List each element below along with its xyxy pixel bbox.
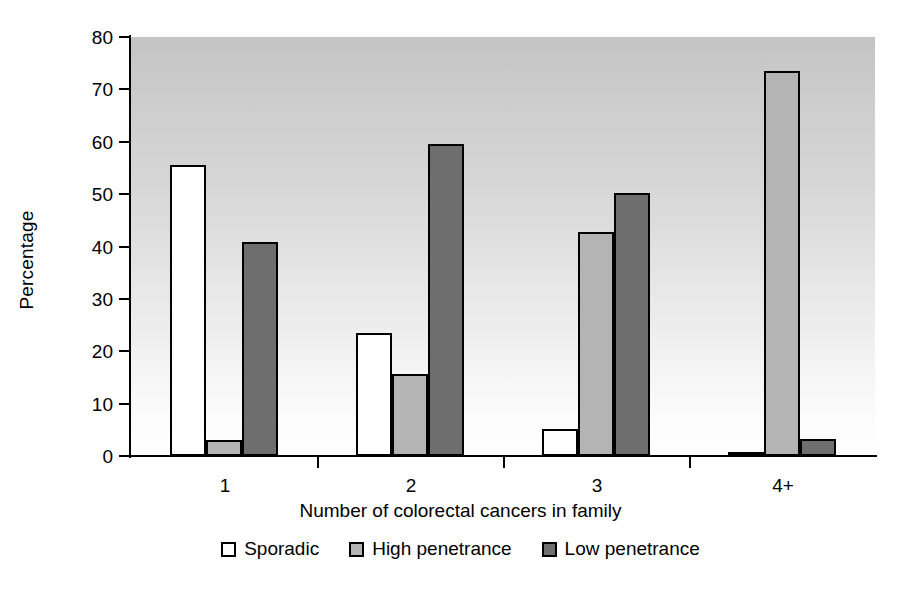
legend-swatch-icon	[349, 542, 364, 557]
bar-chart-figure: Percentage 01020304050607080 1234+ Numbe…	[0, 0, 921, 606]
x-tick-mark	[689, 457, 691, 468]
x-tick-label: 4+	[743, 475, 823, 497]
x-tick-label: 3	[557, 475, 637, 497]
legend-swatch-icon	[542, 542, 557, 557]
legend-item: High penetrance	[349, 538, 511, 560]
legend-item: Low penetrance	[542, 538, 700, 560]
chart-legend: SporadicHigh penetranceLow penetrance	[0, 538, 921, 560]
x-axis-title: Number of colorectal cancers in family	[0, 500, 921, 522]
legend-label: Low penetrance	[565, 538, 700, 560]
x-tick-mark	[503, 457, 505, 468]
legend-item: Sporadic	[221, 538, 319, 560]
legend-label: High penetrance	[372, 538, 511, 560]
legend-swatch-icon	[221, 542, 236, 557]
x-tick-label: 2	[371, 475, 451, 497]
legend-label: Sporadic	[244, 538, 319, 560]
x-tick-mark	[317, 457, 319, 468]
x-tick-label: 1	[185, 475, 265, 497]
